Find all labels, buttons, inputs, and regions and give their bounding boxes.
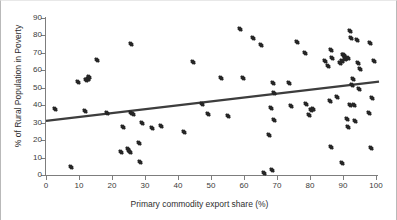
data-point [356,86,362,92]
data-point [350,76,356,82]
x-tick-0 [46,176,47,180]
data-point [128,41,134,47]
x-tick-30 [145,176,146,180]
x-tick-50 [211,176,212,180]
data-point [328,98,334,104]
data-point [139,120,145,126]
y-tick-label-90: 90 [22,14,42,22]
data-point [271,91,277,97]
data-point [238,26,244,32]
data-point [334,95,340,101]
data-point [372,58,378,64]
x-tick-label-90: 90 [332,182,354,190]
x-tick-10 [79,176,80,180]
data-point [347,28,353,34]
x-tick-70 [277,176,278,180]
data-point [288,103,294,109]
data-point [368,145,374,151]
x-tick-label-40: 40 [167,182,189,190]
x-tick-label-30: 30 [134,182,156,190]
x-tick-80 [310,176,311,180]
data-point [130,111,136,117]
data-point [302,50,308,56]
data-point [95,57,101,63]
x-tick-90 [343,176,344,180]
data-point [137,140,143,146]
data-point [303,101,309,107]
y-tick-label-30: 30 [22,119,42,127]
data-point [181,129,187,135]
data-point [127,149,133,155]
x-tick-label-60: 60 [233,182,255,190]
data-point [339,160,345,166]
data-point [270,167,276,173]
data-point [268,105,274,111]
data-point [149,125,155,131]
y-tick-label-80: 80 [22,31,42,39]
y-axis-label: % of Rural Population in Poverty [13,6,23,166]
x-tick-20 [112,176,113,180]
x-tick-60 [244,176,245,180]
data-point [329,144,335,150]
x-tick-40 [178,176,179,180]
data-point [206,111,212,117]
data-point [199,101,205,107]
x-tick-label-100: 100 [365,182,387,190]
data-point [344,116,350,122]
x-tick-100 [376,176,377,180]
data-point [104,110,110,116]
data-point [158,123,164,129]
data-point [270,80,276,86]
y-tick-label-50: 50 [22,84,42,92]
data-point [82,108,88,114]
data-point [351,102,357,108]
data-point [349,82,355,88]
chart-figure: 0102030405060708090 01020304050607080901… [0,0,397,220]
data-point [271,117,277,123]
x-tick-label-0: 0 [35,182,57,190]
y-tick-label-70: 70 [22,49,42,57]
x-tick-label-50: 50 [200,182,222,190]
x-tick-label-20: 20 [101,182,123,190]
data-point [138,159,144,165]
data-point [329,56,335,62]
data-point [328,47,334,53]
y-tick-label-40: 40 [22,101,42,109]
data-point [310,106,316,112]
data-point [294,39,300,45]
data-point [190,59,196,65]
y-tick-label-10: 10 [22,154,42,162]
data-point [326,63,332,69]
data-point [358,66,364,72]
data-point [369,95,375,101]
data-point [75,79,81,85]
data-point [120,124,126,130]
data-point [306,112,312,118]
data-point [225,113,231,119]
y-tick-label-60: 60 [22,66,42,74]
data-point [240,76,246,82]
data-point [352,118,358,124]
data-point [354,37,360,43]
x-tick-label-10: 10 [68,182,90,190]
data-point [368,41,374,47]
x-axis-label: Primary commodity export share (%) [1,199,397,209]
data-point [266,132,272,138]
data-point [250,35,256,41]
y-tick-label-20: 20 [22,136,42,144]
data-point [218,75,224,81]
y-tick-label-0: 0 [22,171,42,179]
data-point [286,80,292,86]
data-point [345,124,351,130]
x-tick-label-70: 70 [266,182,288,190]
data-point [68,164,74,170]
data-point [52,106,58,112]
x-tick-label-80: 80 [299,182,321,190]
data-point [259,42,265,48]
data-point [366,110,372,116]
scatter-plot-area [46,18,376,175]
data-point [118,149,124,155]
